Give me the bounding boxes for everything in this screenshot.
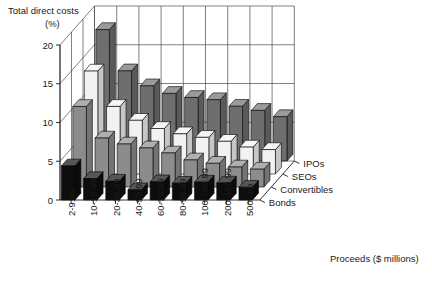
y-axis-tick-label-20: 20: [42, 40, 53, 51]
z-axis-label-ipos: IPOs: [303, 158, 324, 169]
x-axis-tick-label-200-499.99: 200-499.99: [222, 168, 233, 216]
y-axis-tick-label-0: 0: [48, 195, 53, 206]
z-axis-label-bonds: Bonds: [269, 197, 296, 208]
y-axis-tick-label-5: 5: [48, 156, 53, 167]
x-axis-tick-label-500- up: 500- up: [244, 184, 255, 216]
z-axis-tick-ipos: [294, 161, 299, 164]
x-axis-tick-label-100-199.99: 100-199.99: [199, 168, 210, 216]
y-axis-tick-label-10: 10: [42, 117, 53, 128]
z-axis-label-convertibles: Convertibles: [280, 184, 333, 195]
z-axis-tick-convertibles: [271, 187, 276, 190]
three-d-bar-chart: 051015202-9.9910-19.9920-39.9940-59.9960…: [0, 0, 432, 296]
chart-title-line-2: (%): [45, 18, 60, 29]
chart-title-line-1: Total direct costs: [8, 5, 79, 16]
x-axis-tick-label-40-59.99: 40-59.99: [133, 178, 144, 216]
x-axis-tick-label-10-19.99: 10-19.99: [88, 178, 99, 216]
x-axis-tick-label-80-99.99: 80-99.99: [177, 178, 188, 216]
z-axis-tick-seos: [283, 174, 288, 177]
chart-container: 051015202-9.9910-19.9920-39.9940-59.9960…: [0, 0, 432, 296]
x-axis-tick-label-2-9.99: 2-9.99: [66, 189, 77, 216]
x-axis-tick-label-60-79.99: 60-79.99: [155, 178, 166, 216]
x-axis-tick-label-20-39.99: 20-39.99: [111, 178, 122, 216]
y-axis-tick-label-15: 15: [42, 78, 53, 89]
z-axis-tick-bonds: [260, 200, 265, 203]
x-axis-title: Proceeds ($ millions): [330, 253, 419, 264]
z-axis-label-seos: SEOs: [292, 171, 317, 182]
